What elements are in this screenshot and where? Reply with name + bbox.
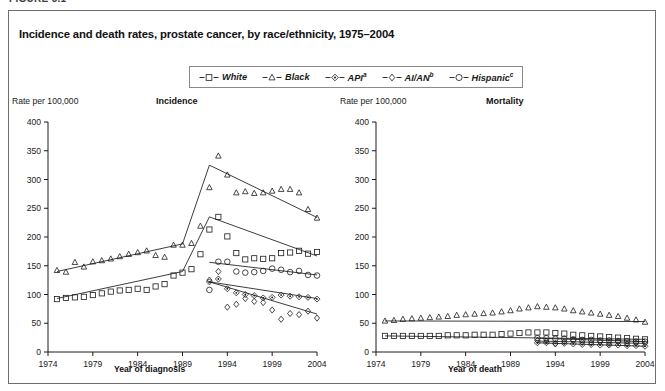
data-point [305,272,311,278]
x-tick-label: 2004 [635,359,654,369]
data-point [571,308,577,313]
data-point [499,332,504,337]
data-point [463,312,469,317]
y-tick-label: 200 [355,232,370,242]
data-point [436,333,441,338]
data-point [314,273,320,279]
data-point [251,269,257,275]
legend-label: White [222,72,247,82]
data-point [427,315,433,320]
data-point [297,312,302,318]
data-point [243,189,249,194]
y-tick-label: 50 [359,318,369,328]
data-point [508,331,513,336]
data-point [278,267,284,273]
data-point [242,270,248,276]
data-point [314,249,319,254]
x-tick-label: 1999 [263,359,282,369]
legend-marker-triangle [262,72,282,83]
data-point [508,308,514,313]
y-tick-label: 150 [27,261,42,271]
chart-legend: WhiteBlackAPIaAI/ANbHispanicc [189,66,523,88]
data-point [436,314,442,319]
data-point [72,259,78,264]
data-point [270,256,275,261]
data-point [153,252,159,257]
data-point [252,298,257,304]
trend-line [385,336,645,339]
x-tick-label: 1999 [591,359,610,369]
data-point [579,309,585,314]
data-point [99,291,104,296]
data-point [269,294,275,300]
legend-label: Black [285,72,310,82]
data-point [171,242,177,247]
series-white [54,214,319,301]
data-point [535,330,540,335]
legend-entry-black: Black [262,72,310,83]
data-point [615,313,621,318]
data-point [252,256,257,261]
data-point [391,317,397,322]
legend-entry-white: White [199,72,247,83]
data-point [153,284,158,289]
data-point [234,251,239,256]
x-tick-label: 1979 [411,359,430,369]
data-point [135,286,140,291]
data-point [189,240,195,245]
data-point [597,311,603,316]
series-hispanic [207,259,320,293]
data-point [207,185,213,190]
plot-mortality: 0501001502002503003504001974197919841989… [334,96,656,386]
data-point [287,186,293,191]
x-tick-label: 1974 [366,359,385,369]
data-point [535,304,541,309]
y-tick-label: 400 [355,117,370,127]
data-point [198,223,204,228]
data-point [305,206,311,211]
data-point [409,316,415,321]
data-point [499,309,505,314]
data-point [553,305,559,310]
x-axis-title-incidence: Year of diagnosis [114,364,185,374]
data-point [234,301,239,307]
data-point [517,306,523,311]
legend-marker-diamond-dot [325,72,345,83]
trend-line [57,217,317,299]
data-point [606,312,612,317]
figure-title: Incidence and death rates, prostate canc… [19,28,394,40]
series-black [382,304,648,325]
data-point [481,310,487,315]
data-point [234,190,240,195]
legend-marker-small-diamond [382,72,402,83]
data-point [72,295,77,300]
plot-incidence: 0501001502002503003504001974197919841989… [6,96,328,386]
data-point [553,330,558,335]
data-point [81,294,86,299]
y-tick-label: 300 [355,175,370,185]
data-point [481,332,486,337]
data-point [296,294,302,300]
legend-entry-api: APIa [325,71,367,83]
y-tick-label: 50 [31,318,41,328]
x-tick-label: 1994 [546,359,565,369]
y-tick-label: 0 [364,347,369,357]
figure-number: FIGURE 3.1 [9,0,66,4]
data-point [216,153,222,158]
trend-line [57,165,317,271]
data-point [162,254,168,259]
data-point [288,250,293,255]
data-point [490,310,496,315]
x-tick-label: 2004 [307,359,326,369]
y-tick-label: 250 [27,203,42,213]
data-point [418,333,423,338]
data-point [225,304,230,310]
data-point [296,190,302,195]
data-point [314,315,319,321]
data-point [243,295,248,301]
legend-label: APIa [348,71,367,83]
data-point [54,267,60,272]
data-point [215,276,221,282]
data-point [517,330,522,335]
data-point [54,297,59,302]
